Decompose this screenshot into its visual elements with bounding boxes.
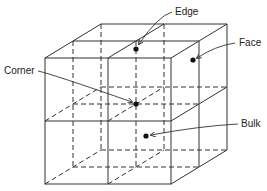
corner-label: Corner	[4, 66, 35, 76]
face-label: Face	[239, 38, 261, 48]
face-arrow	[197, 43, 235, 58]
cube-diagram	[0, 0, 267, 191]
bulk-label: Bulk	[241, 119, 260, 129]
face-dot	[190, 57, 195, 62]
edge-dot	[133, 46, 138, 51]
bulk-dot	[143, 133, 148, 138]
corner-dot	[133, 101, 138, 106]
edge-label: Edge	[175, 7, 198, 17]
edge-arrow	[139, 12, 172, 44]
leader-arrows	[38, 12, 238, 135]
